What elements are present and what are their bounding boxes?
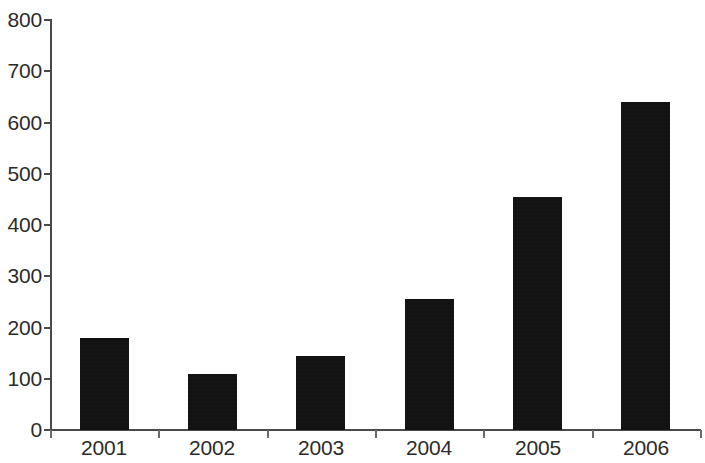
bar bbox=[621, 102, 670, 430]
y-axis-tick-label: 0 bbox=[0, 419, 42, 440]
y-axis-tick-mark bbox=[44, 122, 51, 124]
y-axis-tick-label: 100 bbox=[0, 368, 42, 389]
x-axis-category-label: 2004 bbox=[375, 436, 483, 460]
y-axis-tick-mark bbox=[44, 378, 51, 380]
y-axis-tick-label-wrap: 600 bbox=[0, 112, 42, 133]
y-axis-tick-label-wrap: 100 bbox=[0, 368, 42, 389]
y-axis-tick-label: 400 bbox=[0, 214, 42, 235]
y-axis-tick-label-wrap: 200 bbox=[0, 317, 42, 338]
y-axis-tick-label: 300 bbox=[0, 265, 42, 286]
bar bbox=[513, 197, 562, 430]
x-axis-category-label: 2006 bbox=[592, 436, 700, 460]
y-axis-tick-label-wrap: 500 bbox=[0, 163, 42, 184]
y-axis-tick-label: 600 bbox=[0, 112, 42, 133]
y-axis-tick-label-wrap: 800 bbox=[0, 9, 42, 30]
x-axis-category-label: 2002 bbox=[158, 436, 266, 460]
bar bbox=[296, 356, 345, 430]
bar bbox=[80, 338, 129, 430]
y-axis-tick-label: 700 bbox=[0, 60, 42, 81]
x-axis-category-label: 2003 bbox=[267, 436, 375, 460]
bar-chart: 0100200300400500600700800 20012002200320… bbox=[0, 0, 705, 463]
y-axis-tick-label-wrap: 700 bbox=[0, 60, 42, 81]
y-axis-tick-label-wrap: 300 bbox=[0, 265, 42, 286]
y-axis-tick-mark bbox=[44, 224, 51, 226]
y-axis-tick-label: 800 bbox=[0, 9, 42, 30]
y-axis-tick-mark bbox=[44, 173, 51, 175]
x-axis-category-label: 2005 bbox=[484, 436, 592, 460]
y-axis-tick-mark bbox=[44, 19, 51, 21]
y-axis-tick-mark bbox=[44, 70, 51, 72]
y-axis-tick-mark bbox=[44, 327, 51, 329]
y-axis-tick-mark bbox=[44, 275, 51, 277]
y-axis-tick-label-wrap: 400 bbox=[0, 214, 42, 235]
bar bbox=[188, 374, 237, 430]
y-axis-tick-label-wrap: 0 bbox=[0, 419, 42, 440]
y-axis-tick-label: 200 bbox=[0, 317, 42, 338]
y-axis-tick-label: 500 bbox=[0, 163, 42, 184]
x-axis-tick-mark bbox=[700, 430, 702, 438]
x-axis-category-label: 2001 bbox=[50, 436, 158, 460]
bar bbox=[405, 299, 454, 430]
